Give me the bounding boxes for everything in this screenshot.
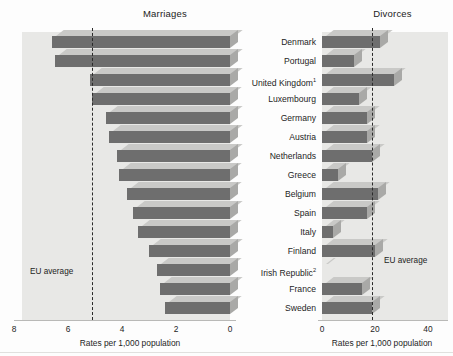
marriage-bar [127, 188, 230, 200]
divorce-bar [322, 245, 375, 257]
divorce-bar [322, 150, 372, 162]
marriage-bar [157, 264, 230, 276]
marriage-bar [90, 74, 230, 86]
left-axis-tick: 6 [53, 324, 83, 334]
category-label: Austria [232, 132, 316, 142]
category-label: France [232, 284, 316, 294]
marriage-bar [165, 302, 230, 314]
marriage-bar [52, 36, 230, 48]
left-axis-tick: 2 [161, 324, 191, 334]
right-axis-tick: 0 [307, 324, 337, 334]
divorce-bar [322, 302, 372, 314]
divorce-bar [322, 188, 378, 200]
category-label: Denmark [232, 37, 316, 47]
right-axis-line [318, 320, 448, 321]
divorce-bar [322, 226, 333, 238]
marriage-bar [133, 207, 230, 219]
left-axis-title: Rates per 1,000 population [60, 338, 200, 348]
right-axis-title: Rates per 1,000 population [312, 338, 452, 348]
category-label: Netherlands [232, 151, 316, 161]
divorce-bar [322, 283, 362, 295]
left-axis-line [14, 320, 236, 321]
category-label: Finland [232, 246, 316, 256]
right-axis-tick: 20 [360, 324, 390, 334]
category-label: Spain [232, 208, 316, 218]
marriage-bar [119, 169, 230, 181]
marriage-bar [117, 150, 230, 162]
right-axis-tick: 40 [413, 324, 443, 334]
marriage-bar [138, 226, 230, 238]
category-label: Portugal [232, 56, 316, 66]
category-label: Luxembourg [232, 94, 316, 104]
marriage-bar [109, 131, 231, 143]
divorce-bar [322, 93, 359, 105]
divorce-bar [322, 207, 367, 219]
marriage-bar [160, 283, 230, 295]
eu-average-label-left: EU average [30, 267, 73, 276]
divorce-bar [322, 74, 394, 86]
divorce-bar [322, 169, 338, 181]
category-label: Irish Republic2 [232, 265, 316, 278]
eu-average-line-left [92, 28, 93, 320]
category-label: Italy [232, 227, 316, 237]
right-panel-title: Divorces [340, 8, 445, 19]
bottom-divider [0, 352, 453, 353]
category-label: Sweden [232, 303, 316, 313]
eu-average-label-right: EU average [384, 256, 427, 265]
left-axis-tick: 8 [0, 324, 29, 334]
divorce-bar [322, 55, 354, 67]
left-panel-title: Marriages [105, 8, 225, 19]
marriage-bar [149, 245, 230, 257]
divorce-bar [322, 131, 367, 143]
chart-figure: Marriages Divorces DenmarkPortugalUnited… [0, 0, 453, 356]
left-axis-tick: 0 [215, 324, 245, 334]
category-label: Belgium [232, 189, 316, 199]
category-label: Greece [232, 170, 316, 180]
left-axis-tick: 4 [107, 324, 137, 334]
category-label: United Kingdom1 [232, 75, 316, 88]
marriage-bar [92, 93, 230, 105]
category-label: Germany [232, 113, 316, 123]
eu-average-line-right [372, 28, 373, 320]
marriage-bar [106, 112, 230, 124]
divorce-bar [322, 112, 367, 124]
marriage-bar [55, 55, 231, 67]
